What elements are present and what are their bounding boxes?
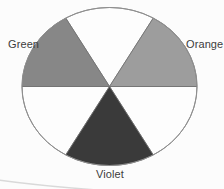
color-wheel-figure: Green Orange Violet — [0, 0, 224, 189]
violet-label: Violet — [96, 168, 124, 180]
wheel-wedges — [22, 7, 197, 165]
color-wheel-svg — [0, 0, 224, 189]
green-label: Green — [8, 38, 39, 50]
scan-artifact-curve — [0, 180, 105, 189]
orange-label: Orange — [186, 38, 223, 50]
